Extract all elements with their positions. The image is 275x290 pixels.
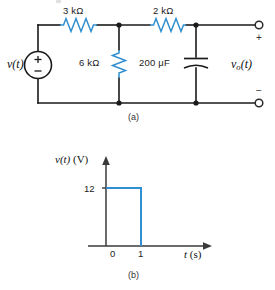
capacitor-symbol (184, 59, 208, 69)
resistor-3k-label: 3 kΩ (63, 5, 84, 16)
y-axis-label-variable: v(t) (55, 153, 70, 165)
output-terminal-positive (255, 21, 263, 29)
source-label: v(t) (7, 57, 24, 72)
y-axis (102, 156, 110, 246)
capacitor-label: 200 μF (139, 57, 170, 68)
resistor-3k-symbol (60, 19, 97, 32)
y-tick-label-12: 12 (84, 183, 95, 194)
panel-b-caption: (b) (128, 270, 139, 280)
output-voltage-arg: (t) (241, 57, 252, 71)
figure-root: 3 kΩ 2 kΩ 6 kΩ 200 μF v(t) + − vo(t) (a) (0, 0, 275, 290)
waveform-panel: v(t) (V) t (s) 12 0 1 (b) (0, 150, 275, 290)
voltage-source-circle (25, 52, 52, 79)
x-axis-label-unit: (s) (190, 248, 202, 260)
node-dot-a-bottom (116, 100, 121, 105)
node-dot-a-top (116, 22, 121, 27)
output-voltage-label: vo(t) (231, 57, 252, 72)
node-dot-b-top (193, 22, 198, 27)
resistor-6k-label: 6 kΩ (79, 57, 100, 68)
x-tick-label-0: 0 (110, 248, 115, 259)
y-axis-label: v(t) (V) (55, 153, 88, 165)
output-terminal-negative (255, 99, 263, 107)
x-axis-label: t (s) (184, 248, 201, 260)
output-minus-sign: − (256, 86, 262, 96)
waveform-plot-svg (0, 150, 275, 290)
resistor-6k-symbol (113, 50, 126, 78)
node-dot-b-bottom (193, 100, 198, 105)
output-plus-sign: + (256, 33, 262, 43)
panel-a-caption: (a) (128, 112, 139, 122)
x-tick-label-1: 1 (138, 248, 143, 259)
x-axis-label-variable: t (184, 248, 187, 260)
resistor-2k-label: 2 kΩ (153, 5, 174, 16)
pulse-waveform-trace (106, 188, 141, 246)
circuit-panel: 3 kΩ 2 kΩ 6 kΩ 200 μF v(t) + − vo(t) (a) (0, 0, 275, 125)
resistor-2k-symbol (150, 19, 186, 32)
y-axis-label-unit: (V) (73, 153, 88, 165)
